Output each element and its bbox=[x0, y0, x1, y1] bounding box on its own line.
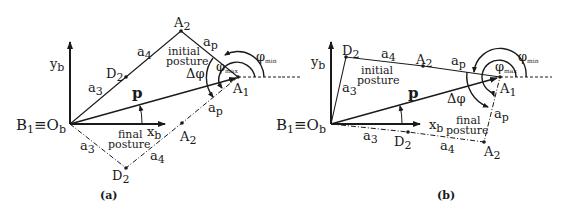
p-label: p bbox=[408, 84, 419, 102]
p-angle-arc bbox=[400, 106, 402, 124]
a4-final-label: a4 bbox=[150, 148, 165, 166]
phi-min-label: φmin bbox=[256, 49, 277, 64]
p-label: p bbox=[132, 84, 143, 102]
point-a1 bbox=[498, 75, 502, 79]
d2-final-label: D2 bbox=[112, 168, 129, 186]
phi-max-label: φmax bbox=[216, 59, 238, 74]
a4-initial-label: a4 bbox=[137, 44, 152, 62]
y-axis-label: yb bbox=[49, 56, 64, 74]
a3-initial-label: a3 bbox=[342, 80, 357, 98]
d2-final-label: D2 bbox=[394, 134, 411, 152]
a3-final-label: a3 bbox=[363, 128, 378, 146]
point-a2-final bbox=[180, 121, 184, 125]
d2-initial-label: D2 bbox=[342, 43, 359, 61]
panel-b: B1≡Ob yb xb p D2 a4 A2 ap a3 initial pos… bbox=[276, 42, 552, 202]
panel-a: B1≡Ob yb xb p A2 D2 a3 a4 ap initial pos… bbox=[16, 15, 282, 202]
point-d2-final bbox=[124, 166, 128, 170]
y-axis-label: yb bbox=[310, 54, 325, 72]
a3-final-label: a3 bbox=[80, 138, 95, 156]
phi-min-label: φmin bbox=[518, 49, 539, 64]
delta-phi-label: Δφ bbox=[186, 66, 205, 81]
d2-initial-label: D2 bbox=[106, 66, 123, 84]
point-d2-initial bbox=[124, 75, 128, 79]
a2-final-label: A2 bbox=[483, 144, 500, 162]
caption-a: (a) bbox=[100, 189, 118, 202]
a1-label: A1 bbox=[499, 81, 516, 99]
ap-initial-label: ap bbox=[203, 34, 218, 52]
initial-posture-label-2: posture bbox=[357, 74, 400, 87]
ap-final-label: ap bbox=[494, 106, 509, 124]
point-d2-final bbox=[406, 130, 410, 134]
origin-label: B1≡Ob bbox=[276, 116, 326, 136]
ap-final-label: ap bbox=[208, 100, 223, 118]
delta-phi-label: Δφ bbox=[447, 91, 466, 106]
point-a1 bbox=[236, 75, 240, 79]
x-axis-label: xb bbox=[429, 117, 443, 135]
ap-initial-label: ap bbox=[451, 53, 466, 71]
p-angle-arc bbox=[140, 106, 142, 124]
final-posture-label-2: posture bbox=[446, 124, 489, 137]
final-posture-label-2: posture bbox=[108, 138, 151, 151]
caption-b: (b) bbox=[437, 189, 455, 202]
a2-final-label: A2 bbox=[179, 129, 196, 147]
origin-label: B1≡Ob bbox=[16, 116, 66, 136]
delta-phi-arc bbox=[467, 72, 488, 107]
a3-initial-label: a3 bbox=[88, 80, 103, 98]
kinematic-diagram: B1≡Ob yb xb p A2 D2 a3 a4 ap initial pos… bbox=[0, 0, 564, 212]
a1-label: A1 bbox=[232, 81, 249, 99]
a4-final-label: a4 bbox=[440, 138, 455, 156]
